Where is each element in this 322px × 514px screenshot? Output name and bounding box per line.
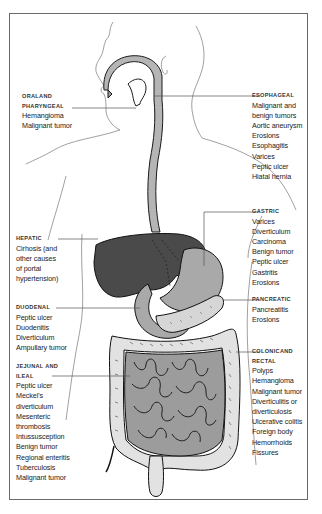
rectum [149, 456, 164, 497]
colonic-item: Polyps [252, 366, 302, 376]
gastric-item: Varices [252, 217, 294, 227]
jejunal-item: Peptic ulcer [16, 381, 70, 391]
oral-item: Hemangioma [22, 111, 72, 121]
esophagus [104, 56, 163, 232]
jejunal-item: Regional enteritis [16, 453, 70, 463]
jejunal-item: Malignant tumor [16, 473, 70, 483]
gastric-item: Carcinoma [252, 237, 294, 247]
esophageal-item: Erosions [252, 131, 302, 141]
colonic-item: diverticulosis [252, 407, 302, 417]
heading-pharyngeal: PHARYNGEAL [22, 102, 72, 112]
gastric-item: Diverticulum [252, 227, 294, 237]
heading-oral: ORALAND [22, 92, 72, 102]
label-oral-pharyngeal: ORALAND PHARYNGEAL Hemangioma Malignant … [22, 92, 72, 132]
esophageal-item: benign tumors [252, 111, 302, 121]
pancreatic-item: Pancreatitis [252, 305, 291, 315]
heading-hepatic: HEPATIC [16, 234, 58, 244]
appendix [106, 446, 114, 472]
jejunal-item: Intussusception [16, 432, 70, 442]
heading-pancreatic: PANCREATIC [252, 295, 291, 305]
label-pancreatic: PANCREATIC Pancreatitis Erosions [252, 295, 291, 325]
hepatic-item: hypertension) [16, 274, 58, 284]
esophageal-item: Malignant and [252, 101, 302, 111]
esophageal-item: Hiatal hernia [252, 172, 302, 182]
hepatic-item: other causes [16, 254, 58, 264]
jejunal-item: Meckel's [16, 391, 70, 401]
heading-duodenal: DUODENAL [16, 303, 67, 313]
colonic-item: Hemorrhoids [252, 438, 302, 448]
jejunal-item: Tuberculosis [16, 463, 70, 473]
jejunal-item: Mesenteric [16, 412, 70, 422]
duodenal-item: Diverticulum [16, 333, 67, 343]
duodenal-item: Peptic ulcer [16, 313, 67, 323]
heading-rectal: RECTAL [252, 357, 302, 367]
esophageal-item: Peptic ulcer [252, 162, 302, 172]
colonic-item: Foreign body [252, 427, 302, 437]
jejunal-item: Benign tumor [16, 442, 70, 452]
heading-colonic: COLONICAND [252, 347, 302, 357]
gastric-item: Erosions [252, 278, 294, 288]
colonic-item: Ulcerative colitis [252, 417, 302, 427]
esophageal-item: Esophagitis [252, 141, 302, 151]
label-esophageal: ESOPHAGEAL Malignant and benign tumors A… [252, 91, 302, 182]
gastric-item: Benign tumor [252, 247, 294, 257]
esophageal-item: Varices [252, 152, 302, 162]
heading-ileal: ILEAL [16, 372, 70, 382]
jejunal-item: diverticulum [16, 402, 70, 412]
label-jejunal-ileal: JEJUNAL AND ILEAL Peptic ulcer Meckel's … [16, 362, 70, 483]
gastric-item: Gastritis [252, 268, 294, 278]
gastric-item: Peptic ulcer [252, 257, 294, 267]
label-gastric: GASTRIC Varices Diverticulum Carcinoma B… [252, 207, 294, 288]
colonic-item: Fissures [252, 448, 302, 458]
label-duodenal: DUODENAL Peptic ulcer Duodenitis Diverti… [16, 303, 67, 353]
duodenal-item: Ampullary tumor [16, 343, 67, 353]
colonic-item: Malignant tumor [252, 387, 302, 397]
hepatic-item: Cirhosis (and [16, 244, 58, 254]
pancreatic-item: Erosions [252, 315, 291, 325]
jejunal-item: thrombosis [16, 422, 70, 432]
small-intestine [125, 350, 225, 456]
hepatic-item: of portal [16, 264, 58, 274]
heading-gastric: GASTRIC [252, 207, 294, 217]
heading-jejunal: JEJUNAL AND [16, 362, 70, 372]
esophageal-item: Aortic aneurysm [252, 121, 302, 131]
label-hepatic: HEPATIC Cirhosis (and other causes of po… [16, 234, 58, 284]
heading-esophageal: ESOPHAGEAL [252, 91, 302, 101]
label-colonic-rectal: COLONICAND RECTAL Polyps Hemangioma Mali… [252, 347, 302, 458]
colonic-item: Diverticulitis or [252, 397, 302, 407]
oral-item: Malignant tumor [22, 121, 72, 131]
colonic-item: Hemangioma [252, 376, 302, 386]
duodenal-item: Duodenitis [16, 323, 67, 333]
